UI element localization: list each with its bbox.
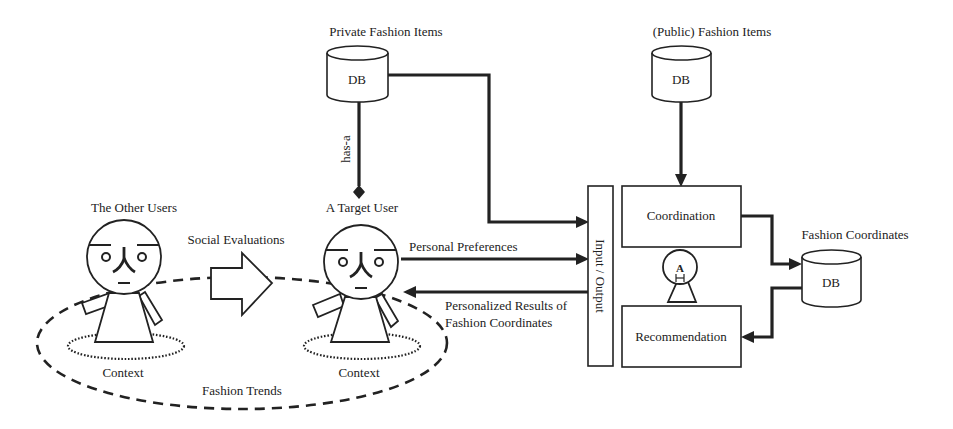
arrowhead-icon <box>789 258 802 270</box>
other-user-figure-icon <box>82 220 162 342</box>
personalized-results-label-line2: Fashion Coordinates <box>445 315 552 330</box>
private-db-title: Private Fashion Items <box>329 24 442 39</box>
social-evaluations-arrow-icon <box>211 253 272 315</box>
other-users-title: The Other Users <box>91 200 177 215</box>
other-user-context-label: Context <box>102 365 144 380</box>
fashion-trends-label: Fashion Trends <box>202 383 282 398</box>
coordination-label: Coordination <box>647 208 716 223</box>
private-db-to-io-connector <box>388 75 577 222</box>
fashion-recommendation-diagram: Fashion Trends Context Context Private F… <box>0 0 953 429</box>
target-user-figure-icon <box>313 225 398 342</box>
coordination-to-db-connector <box>741 216 790 264</box>
db-to-recommendation-connector <box>753 288 802 337</box>
arrowhead-icon <box>576 216 589 228</box>
target-user-context-label: Context <box>338 365 380 380</box>
coordinates-db-title: Fashion Coordinates <box>801 227 908 242</box>
arrowhead-icon <box>741 331 754 343</box>
input-output-label: Input / Output <box>593 239 608 313</box>
has-a-label: has-a <box>338 135 353 163</box>
public-db-label: DB <box>672 72 690 87</box>
public-db-title: (Public) Fashion Items <box>653 24 771 39</box>
svg-text:A: A <box>676 262 684 274</box>
target-user-title: A Target User <box>326 200 399 215</box>
coordinates-db-label: DB <box>822 275 840 290</box>
arrowhead-icon <box>675 174 687 187</box>
personalized-results-label-line1: Personalized Results of <box>445 298 568 313</box>
personal-preferences-label: Personal Preferences <box>409 239 518 254</box>
social-evaluations-label: Social Evaluations <box>187 232 284 247</box>
arrowhead-icon <box>403 286 416 298</box>
recommendation-label: Recommendation <box>635 329 727 344</box>
private-db-label: DB <box>348 72 366 87</box>
arrowhead-icon <box>576 253 589 265</box>
has-a-diamond-icon <box>353 185 365 199</box>
system-agent-icon: A <box>663 250 697 302</box>
